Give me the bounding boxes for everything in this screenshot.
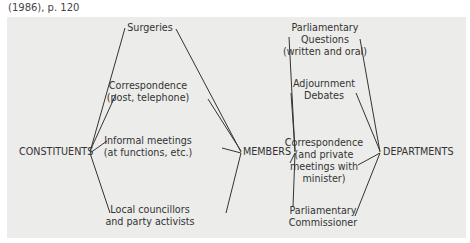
node-members: MEMBERS: [243, 146, 291, 158]
channel-parliamentary-questions: Parliamentary Questions (written and ora…: [283, 22, 367, 58]
channel-informal-meetings: Informal meetings (at functions, etc.): [104, 135, 192, 159]
channel-correspondence-post: Correspondence (post, telephone): [107, 80, 190, 104]
connector-lines: [0, 0, 470, 243]
node-constituents: CONSTITUENTS: [19, 146, 93, 158]
channel-local-councillors: Local councillors and party activists: [105, 204, 194, 228]
channel-adjournment-debates: Adjournment Debates: [293, 78, 355, 102]
channel-parliamentary-commissioner: Parliamentary Commissioner: [289, 205, 357, 229]
channel-surgeries: Surgeries: [127, 22, 172, 34]
channel-correspondence-minister: Correspondence (and private meetings wit…: [285, 137, 363, 185]
node-departments: DEPARTMENTS: [383, 146, 453, 158]
